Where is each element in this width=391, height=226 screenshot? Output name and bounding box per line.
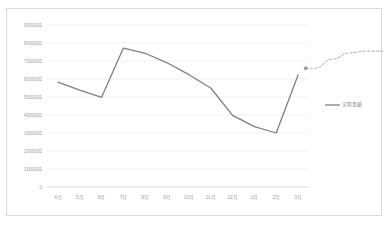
y-axis-tick-label: 1000000 — [24, 167, 42, 172]
y-axis-tick-label: 6000000 — [24, 77, 42, 82]
y-axis-tick-labels: 0100000020000003000000400000050000006000… — [24, 23, 42, 190]
y-axis-tick-label: 7000000 — [24, 59, 42, 64]
x-axis-tick-label: 8月 — [141, 195, 149, 201]
x-axis-tick-label: 12月 — [228, 195, 238, 201]
y-axis-tick-label: 8000000 — [24, 41, 42, 46]
trend-start-marker — [304, 66, 308, 70]
x-axis-tick-label: 2月 — [272, 195, 280, 201]
y-axis-tick-label: 3000000 — [24, 131, 42, 136]
chart-plot-area: 0100000020000003000000400000050000006000… — [7, 9, 381, 215]
y-axis-tick-label: 0 — [39, 185, 42, 190]
y-axis-tick-label: 2000000 — [24, 149, 42, 154]
line-chart[interactable]: 0100000020000003000000400000050000006000… — [7, 9, 383, 217]
x-axis-tick-label: 7月 — [120, 195, 128, 201]
x-axis-tick-label: 11月 — [206, 195, 216, 201]
x-axis-tick-label: 5月 — [76, 195, 84, 201]
x-axis-tick-label: 6月 — [98, 195, 106, 201]
y-axis-tick-label: 5000000 — [24, 95, 42, 100]
x-axis-tick-label: 9月 — [163, 195, 171, 201]
y-axis-tick-label: 4000000 — [24, 113, 42, 118]
x-axis-tick-labels: 4月5月6月7月8月9月10月11月12月1月2月3月 — [54, 195, 302, 201]
y-axis-tick-label: 9000000 — [24, 23, 42, 28]
legend[interactable]: 実際業績 — [325, 101, 362, 108]
legend-label-actual-results: 実際業績 — [342, 101, 362, 108]
trend-extension-line — [306, 51, 383, 68]
x-axis-tick-label: 4月 — [54, 195, 62, 201]
x-axis-tick-label: 10月 — [184, 195, 194, 201]
x-axis-tick-label: 1月 — [251, 195, 259, 201]
x-axis-tick-label: 3月 — [294, 195, 302, 201]
gridlines — [47, 25, 309, 187]
chart-card: 0100000020000003000000400000050000006000… — [6, 8, 382, 216]
